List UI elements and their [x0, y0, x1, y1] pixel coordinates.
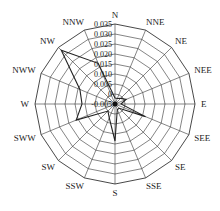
direction-label-nee: NEE [194, 65, 212, 75]
radial-tick: 0.030 [94, 30, 112, 39]
direction-label-nne: NNE [146, 17, 165, 27]
radial-tick: 0.035 [94, 20, 112, 29]
direction-label-nw: NW [40, 36, 55, 46]
radial-tick: 0.010 [94, 70, 112, 79]
direction-label-sse: SSE [146, 181, 162, 191]
direction-label-e: E [201, 99, 207, 109]
direction-label-s: S [112, 188, 117, 198]
direction-label-sw: SW [42, 162, 56, 172]
radial-tick: 0.015 [94, 60, 112, 69]
direction-label-ssw: SSW [65, 181, 84, 191]
radial-tick: -0.005 [91, 100, 112, 109]
direction-label-w: W [21, 99, 30, 109]
direction-label-nww: NWW [12, 65, 36, 75]
radial-tick: 0.005 [94, 80, 112, 89]
radial-tick: 0 [108, 90, 112, 99]
radial-tick: 0.025 [94, 40, 112, 49]
radial-tick: 0.020 [94, 50, 112, 59]
wind-rose-chart: NNNENENEEESEESESSESSSWSWSWWWNWWNWNNW -0.… [0, 0, 220, 211]
direction-label-se: SE [175, 162, 186, 172]
direction-label-see: SEE [194, 133, 211, 143]
direction-label-nnw: NNW [62, 17, 84, 27]
direction-label-n: N [112, 10, 119, 20]
direction-label-sww: SWW [14, 133, 37, 143]
direction-label-ne: NE [175, 36, 187, 46]
center-marker [113, 102, 118, 107]
